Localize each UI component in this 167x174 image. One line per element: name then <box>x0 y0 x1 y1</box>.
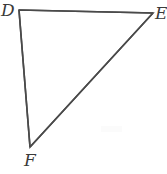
edge-de <box>19 10 153 13</box>
vertex-label-e: E <box>155 5 167 22</box>
vertex-label-f: F <box>24 152 36 169</box>
triangle-def-shape <box>19 10 153 147</box>
vertex-label-d: D <box>1 2 15 19</box>
geometry-figure: D E F <box>0 0 167 174</box>
edge-ef <box>30 13 153 147</box>
triangle-svg-canvas <box>0 0 167 174</box>
edge-fd <box>19 10 30 147</box>
